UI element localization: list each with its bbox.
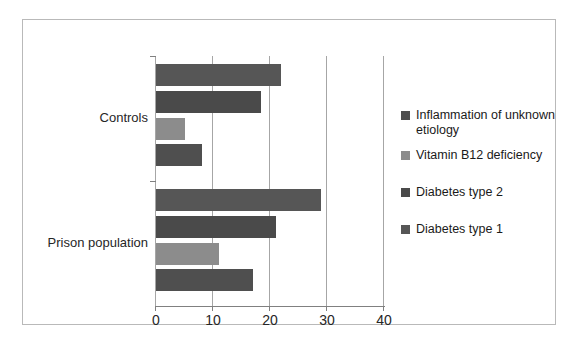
- legend-swatch-icon: [401, 188, 410, 197]
- legend-swatch-icon: [401, 111, 410, 120]
- legend-swatch-icon: [401, 151, 410, 160]
- legend-label: Diabetes type 2: [416, 185, 503, 200]
- bar: [156, 91, 261, 113]
- category-label-prison-population: Prison population: [28, 235, 148, 250]
- value-axis-tick-label: 0: [136, 312, 176, 328]
- legend-label: Diabetes type 1: [416, 222, 503, 237]
- legend-item: Diabetes type 2: [401, 185, 571, 200]
- value-axis-tick-label: 20: [250, 312, 290, 328]
- legend-label: Vitamin B12 deficiency: [416, 148, 542, 163]
- value-axis-tick: [269, 306, 270, 311]
- plot-area: [156, 56, 384, 306]
- bar: [156, 64, 281, 86]
- chart-legend: Inflammation of unknown etiologyVitamin …: [401, 108, 571, 251]
- legend-label: Inflammation of unknown etiology: [416, 108, 571, 138]
- bar: [156, 144, 202, 166]
- value-axis-tick: [155, 306, 156, 311]
- value-axis-tick: [383, 306, 384, 311]
- legend-item: Inflammation of unknown etiology: [401, 108, 571, 138]
- chart-figure: 010203040 ControlsPrison population Infl…: [0, 0, 574, 342]
- bar: [156, 189, 321, 211]
- value-axis-line: [156, 306, 385, 307]
- legend-item: Vitamin B12 deficiency: [401, 148, 571, 163]
- value-axis-tick: [326, 306, 327, 311]
- bar: [156, 216, 276, 238]
- value-axis-tick: [212, 306, 213, 311]
- value-axis-tick-label: 10: [193, 312, 233, 328]
- bar: [156, 269, 253, 291]
- bar: [156, 118, 185, 140]
- legend-item: Diabetes type 1: [401, 222, 571, 237]
- value-axis-tick-label: 40: [364, 312, 404, 328]
- bar: [156, 243, 219, 265]
- chart-frame: 010203040 ControlsPrison population Infl…: [22, 19, 556, 325]
- value-axis-tick-label: 30: [307, 312, 347, 328]
- category-label-controls: Controls: [28, 110, 148, 125]
- legend-swatch-icon: [401, 225, 410, 234]
